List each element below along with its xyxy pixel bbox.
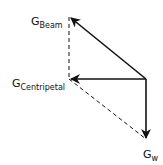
weight-label-main: G — [143, 148, 152, 161]
beam-vector-arrow — [71, 18, 146, 79]
weight-label: Gw — [143, 143, 158, 162]
dashed-diagonal-line — [69, 79, 146, 139]
centripetal-label-main: G — [12, 77, 21, 90]
centripetal-label: GCentripetal — [12, 72, 65, 91]
centripetal-label-sub: Centripetal — [21, 83, 66, 92]
beam-label: GBeam — [31, 10, 63, 29]
weight-label-sub: w — [152, 154, 159, 163]
beam-label-sub: Beam — [40, 21, 63, 30]
beam-label-main: G — [31, 15, 40, 28]
